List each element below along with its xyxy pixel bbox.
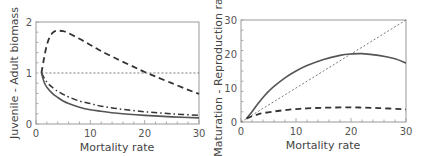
series-line-solid: [247, 54, 407, 119]
y-tick-label: 30: [224, 15, 237, 26]
series-line-dashed: [41, 31, 199, 94]
x-tick-label: 0: [238, 126, 244, 137]
y-tick-label: 1: [26, 68, 32, 79]
x-tick-label: 20: [345, 126, 358, 137]
left-series: [41, 31, 199, 118]
y-tick-label: 20: [224, 49, 237, 60]
left-panel: 0102030 012 Mortality rate Juvenile - Ad…: [8, 7, 205, 154]
series-line-dash-dot: [41, 73, 199, 115]
left-y-tick-labels: 012: [26, 17, 32, 130]
x-tick-label: 0: [33, 128, 39, 139]
left-y-axis-label: Juvenile - Adult biomass: [8, 7, 21, 140]
x-tick-label: 30: [193, 128, 206, 139]
series-line-solid: [41, 73, 199, 118]
right-series: [241, 20, 406, 122]
right-panel: 0102030 0102030 Mortality rate Maturatio…: [212, 0, 412, 156]
right-y-axis-label: Maturation - Reproduction rate: [212, 0, 225, 156]
y-tick-label: 2: [26, 17, 32, 28]
left-x-tick-labels: 0102030: [33, 128, 206, 139]
x-tick-label: 20: [138, 128, 151, 139]
x-tick-label: 10: [290, 126, 303, 137]
y-tick-label: 10: [224, 83, 237, 94]
series-line-dashed: [247, 107, 407, 118]
x-tick-label: 10: [84, 128, 97, 139]
left-x-axis-label: Mortality rate: [80, 141, 155, 154]
y-tick-label: 0: [26, 119, 32, 130]
right-x-tick-labels: 0102030: [238, 126, 413, 137]
right-y-tick-labels: 0102030: [224, 15, 237, 128]
x-tick-label: 30: [400, 126, 413, 137]
chart-figure: 0102030 012 Mortality rate Juvenile - Ad…: [0, 0, 421, 156]
series-line-reference: [241, 20, 406, 122]
y-tick-label: 0: [231, 117, 237, 128]
right-x-axis-label: Mortality rate: [286, 139, 361, 152]
